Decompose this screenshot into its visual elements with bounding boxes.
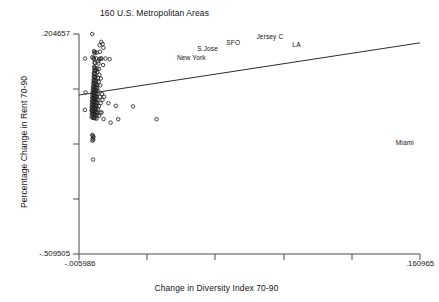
data-point xyxy=(109,121,113,125)
data-point xyxy=(98,44,102,48)
data-point xyxy=(108,57,112,61)
data-point xyxy=(102,117,106,121)
point-label-s-jose: S.Jose xyxy=(197,45,218,52)
point-label-jersey-c: Jersey C xyxy=(256,33,283,40)
y-axis-tick-label-max: .204657 xyxy=(18,29,70,38)
y-axis-tick-label-min: -.509505 xyxy=(18,249,70,258)
data-point xyxy=(102,46,106,50)
data-point xyxy=(155,117,159,121)
point-label-miami: Miami xyxy=(396,139,414,146)
regression-line xyxy=(79,43,420,95)
chart-title: 160 U.S. Metropolitan Areas xyxy=(100,8,209,18)
data-point xyxy=(98,50,102,54)
data-point xyxy=(104,57,108,61)
data-point xyxy=(83,108,87,112)
data-point xyxy=(83,57,87,61)
point-label-new-york: New York xyxy=(177,54,206,61)
data-point xyxy=(114,104,118,108)
x-axis-tick-label-min: -.005986 xyxy=(52,259,108,268)
point-label-sfo: SFO xyxy=(226,39,240,46)
point-label-la: LA xyxy=(292,41,300,48)
y-axis-title: Percentage Change in Rent 70-90 xyxy=(19,37,29,247)
data-point xyxy=(91,32,95,36)
data-point xyxy=(97,62,101,66)
data-point-group xyxy=(83,32,158,161)
axes-group xyxy=(79,34,420,254)
x-axis-title: Change in Diversity Index 70-90 xyxy=(0,283,433,293)
data-point xyxy=(91,158,95,162)
data-point xyxy=(116,117,120,121)
data-point xyxy=(131,105,135,109)
y-axis-ticks xyxy=(73,34,79,254)
x-axis-ticks xyxy=(79,254,420,260)
data-point xyxy=(101,63,105,67)
x-axis-tick-label-max: .160965 xyxy=(392,259,439,268)
data-point xyxy=(107,101,111,105)
